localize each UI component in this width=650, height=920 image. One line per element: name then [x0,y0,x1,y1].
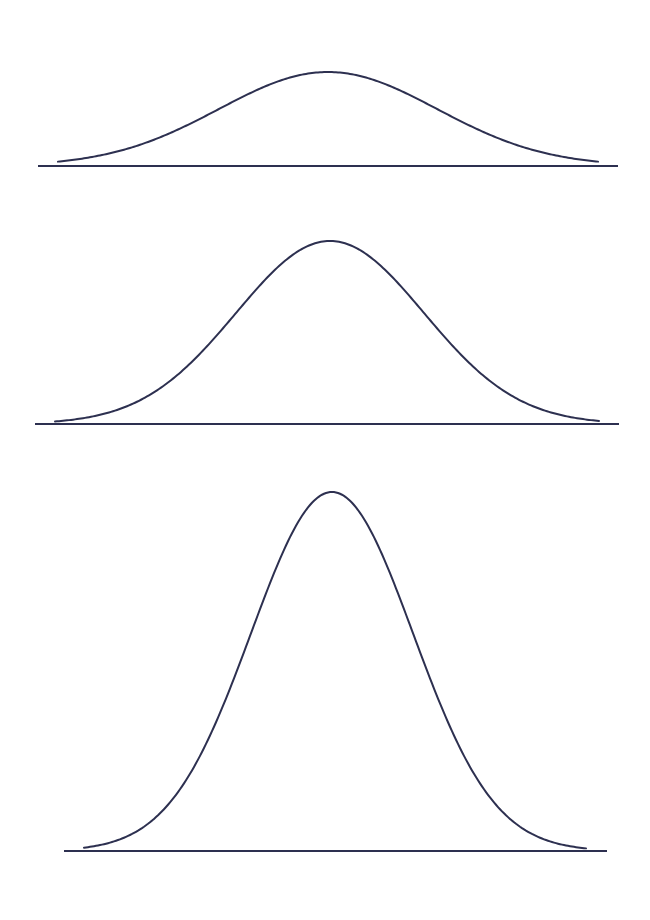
curve-2 [55,241,599,421]
curve-3 [84,492,586,848]
bell-curve-1 [38,72,618,166]
bell-curves-diagram [0,0,650,920]
bell-curve-3 [64,492,607,851]
curve-1 [58,72,598,162]
bell-curve-2 [35,241,619,424]
